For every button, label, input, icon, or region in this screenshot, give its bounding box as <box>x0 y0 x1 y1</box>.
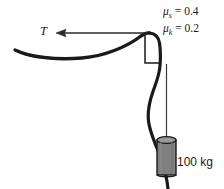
kinetic-friction-label: μk = 0.2 <box>163 23 199 37</box>
mu-equals-kinetic: = <box>172 22 184 34</box>
static-friction-label: μs = 0.4 <box>163 6 199 20</box>
mu-equals-static: = <box>172 5 184 17</box>
mu-value-static: 0.4 <box>184 5 198 17</box>
physics-diagram: μs = 0.4 μk = 0.2 T 100 kg <box>0 0 224 189</box>
hanging-weight-body <box>157 140 176 175</box>
mu-value-kinetic: 0.2 <box>185 22 199 34</box>
friction-coefficients: μs = 0.4 μk = 0.2 <box>163 6 199 41</box>
tension-label: T <box>40 25 47 38</box>
mass-label: 100 kg <box>177 156 213 168</box>
tension-arrowhead <box>56 29 66 37</box>
hanging-weight-top <box>157 137 176 144</box>
rope-horizontal-segment <box>15 33 150 59</box>
